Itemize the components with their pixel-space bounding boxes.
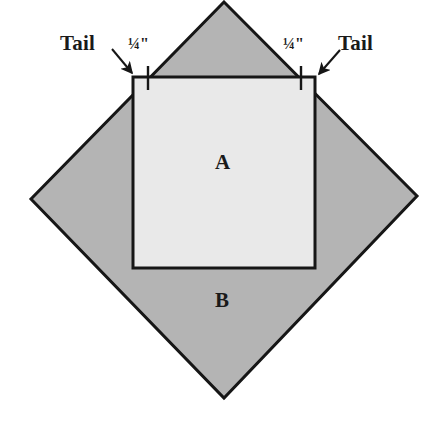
quarter-inch-label-right: ¼" (283, 36, 304, 52)
diagram-svg (0, 0, 438, 423)
tail-label-left: Tail (60, 33, 95, 54)
figure-canvas: Tail ¼" ¼" Tail A B (0, 0, 438, 423)
region-label-a: A (215, 152, 230, 173)
tail-label-right: Tail (338, 33, 373, 54)
quarter-inch-label-left: ¼" (128, 36, 149, 52)
right-tail-arrow-icon (319, 50, 340, 74)
region-label-b: B (215, 290, 229, 311)
left-tail-arrow-icon (112, 49, 132, 73)
